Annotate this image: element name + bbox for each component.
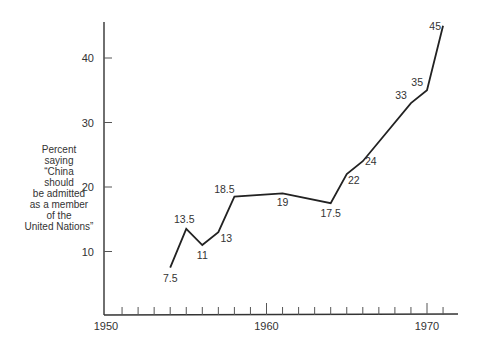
x-tick-label: 1970 — [415, 320, 439, 332]
data-line — [170, 26, 443, 268]
y-tick-label: 10 — [82, 246, 94, 258]
data-label: 22 — [348, 174, 360, 186]
data-label: 33 — [395, 89, 407, 101]
y-tick-label: 40 — [82, 52, 94, 64]
x-axis — [104, 314, 458, 315]
ticks: 10203040195019601970 — [82, 52, 443, 332]
data-series — [170, 26, 443, 268]
axes — [104, 22, 458, 315]
data-label: 35 — [411, 76, 423, 88]
data-label: 17.5 — [320, 207, 341, 219]
data-label: 18.5 — [214, 183, 235, 195]
x-tick-label: 1960 — [254, 320, 278, 332]
data-label: 13 — [221, 232, 233, 244]
x-tick-label: 1950 — [94, 320, 118, 332]
data-label: 45 — [429, 20, 441, 32]
data-label: 11 — [197, 249, 208, 261]
data-label: 7.5 — [163, 272, 178, 284]
data-label: 13.5 — [174, 213, 195, 225]
y-tick-label: 30 — [82, 117, 94, 129]
line-chart: 10203040195019601970 7.513.5111318.51917… — [0, 0, 479, 346]
y-tick-label: 20 — [82, 181, 94, 193]
data-label: 24 — [365, 155, 377, 167]
data-label: 19 — [277, 196, 289, 208]
